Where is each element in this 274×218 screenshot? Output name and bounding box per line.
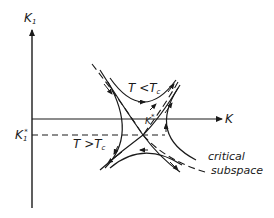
- critical-k1-label: K1*: [15, 129, 28, 143]
- k1-axis-label: K1: [24, 12, 36, 26]
- flow-curve-left: [105, 82, 122, 168]
- above-tc-label: T >Tc: [73, 138, 105, 152]
- critical-subspace-line2: subspace: [211, 164, 263, 178]
- critical-subspace-label: critical subspace: [208, 150, 263, 178]
- rg-flow-diagram: [0, 0, 274, 218]
- critical-subspace-line1: critical: [208, 150, 263, 164]
- fixed-point-arrow: [150, 104, 156, 110]
- k-axis-label: K: [225, 113, 233, 125]
- below-tc-label: T <Tc: [128, 82, 160, 96]
- fixed-point-label: K*: [145, 114, 154, 126]
